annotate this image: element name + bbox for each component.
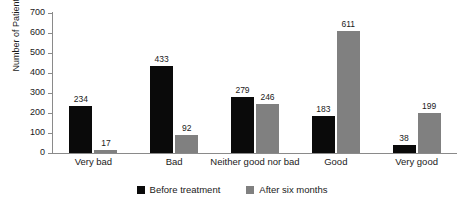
y-axis-tick-label: 0 [0,148,45,157]
plot-area: 234174339227924618361138199 [53,13,457,153]
bar-value-label: 92 [169,124,204,133]
bar-value-label: 611 [331,20,366,29]
y-axis-tick [48,73,52,74]
bar-after-six-months [94,150,117,153]
bar-before-treatment [312,116,335,153]
y-axis-tick [48,113,52,114]
x-axis-label-very-good: Very good [357,157,464,167]
bar-value-label: 38 [387,134,422,143]
y-axis-tick-label: 700 [0,8,45,17]
bar-before-treatment [393,145,416,153]
y-axis-tick [48,93,52,94]
bar-value-label: 234 [63,95,98,104]
y-axis-tick-label: 400 [0,68,45,77]
bar-after-six-months [175,135,198,153]
bar-after-six-months [337,31,360,153]
bar-value-label: 433 [144,55,179,64]
y-axis-tick [48,13,52,14]
bar-after-six-months [256,104,279,153]
bar-value-label: 199 [412,102,447,111]
legend-label: Before treatment [150,185,221,195]
y-axis-tick-label: 100 [0,128,45,137]
y-axis-tick [48,153,52,154]
bar-before-treatment [150,66,173,153]
y-axis-tick [48,133,52,134]
bar-after-six-months [418,113,441,153]
y-axis-tick-label: 200 [0,108,45,117]
legend-item-after-six-months[interactable]: After six months [246,185,327,195]
chart-legend: Before treatmentAfter six months [0,185,464,195]
y-axis-tick-label: 500 [0,48,45,57]
bar-before-treatment [231,97,254,153]
bar-value-label: 183 [306,105,341,114]
legend-swatch-icon [137,186,145,194]
legend-item-before-treatment[interactable]: Before treatment [137,185,221,195]
y-axis-tick-label: 600 [0,28,45,37]
bar-value-label: 17 [88,139,123,148]
y-axis-tick [48,33,52,34]
y-axis-tick-label: 300 [0,88,45,97]
bar-chart: Number of Patients 700600500400300200100… [0,0,464,209]
bar-value-label: 246 [250,93,285,102]
legend-swatch-icon [246,186,254,194]
x-axis-line [52,153,457,154]
y-axis-tick [48,53,52,54]
legend-label: After six months [259,185,327,195]
